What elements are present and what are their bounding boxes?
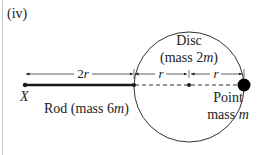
disc-center-dot [187,83,191,87]
rod-disc-diagram: (iv) 2r r r X Rod (mass 6m) Disc (mass 2… [0,0,265,155]
point-x-label: X [19,89,29,104]
disc-mass-label: (mass 2m) [160,50,218,66]
disc-title-label: Disc [176,33,202,48]
dim-r2-label: r [213,66,219,81]
rod-label: Rod (mass 6m) [44,101,129,117]
point-mass-label-line2: mass m [207,107,249,122]
point-x-dot [23,83,27,87]
point-mass-label-line1: Point [213,90,243,105]
part-label: (iv) [7,6,28,22]
dim-r1-label: r [158,66,164,81]
dim-2r-label: 2r [77,66,90,81]
